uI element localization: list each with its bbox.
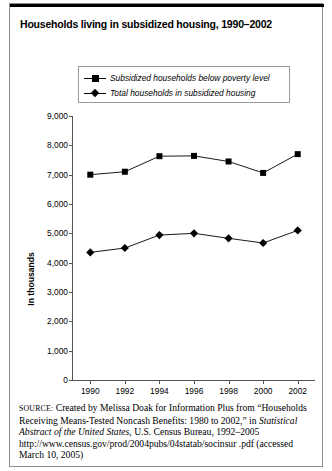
y-axis-tick-mark <box>69 263 73 264</box>
source-label: SOURCE: <box>19 404 53 413</box>
x-axis-tick-label: 1996 <box>185 386 204 396</box>
y-axis-tick-label: 6,000 <box>47 199 68 209</box>
x-axis-tick-mark <box>298 380 299 384</box>
y-axis-tick-mark <box>69 116 73 117</box>
y-axis-tick-mark <box>69 204 73 205</box>
y-axis-tick-label: 3,000 <box>47 287 68 297</box>
y-axis-tick-mark <box>69 380 73 381</box>
x-axis-tick-mark <box>263 380 264 384</box>
legend-item-label: Total households in subsidized housing <box>110 88 255 98</box>
chart-legend: Subsidized households below poverty leve… <box>78 66 290 103</box>
x-axis-tick-mark <box>159 380 160 384</box>
x-axis-tick-label: 2002 <box>288 386 307 396</box>
y-axis-label: In thousands <box>26 234 36 324</box>
y-axis-tick-mark <box>69 175 73 176</box>
diamond-marker <box>224 234 232 242</box>
square-marker <box>295 151 301 157</box>
x-axis-tick-mark <box>229 380 230 384</box>
source-note: SOURCE: Created by Melissa Doak for Info… <box>19 402 317 461</box>
diamond-marker <box>294 226 302 234</box>
square-marker-icon <box>84 73 106 83</box>
figure-container: Households living in subsidized housing,… <box>9 3 323 467</box>
legend-item-subsidized-below-poverty: Subsidized households below poverty leve… <box>84 71 270 85</box>
y-axis-tick-label: 7,000 <box>47 170 68 180</box>
x-axis-tick-label: 2000 <box>254 386 273 396</box>
y-axis-tick-label: 1,000 <box>47 346 68 356</box>
legend-item-total-subsidized: Total households in subsidized housing <box>84 86 255 100</box>
y-axis-tick-mark <box>69 145 73 146</box>
x-axis-tick-label: 1990 <box>81 386 100 396</box>
y-axis-tick-label: 9,000 <box>47 111 68 121</box>
square-marker <box>191 153 197 159</box>
plot-area: 01,0002,0003,0004,0005,0006,0007,0008,00… <box>72 116 315 381</box>
y-axis-tick-label: 5,000 <box>47 228 68 238</box>
square-marker <box>260 170 266 176</box>
x-axis-tick-mark <box>125 380 126 384</box>
diamond-marker <box>259 239 267 247</box>
y-axis-tick-mark <box>69 292 73 293</box>
x-axis-tick-label: 1998 <box>219 386 238 396</box>
x-axis-tick-mark <box>90 380 91 384</box>
y-axis-tick-mark <box>69 351 73 352</box>
square-marker <box>156 153 162 159</box>
title-rule <box>10 4 324 7</box>
x-axis-tick-label: 1994 <box>150 386 169 396</box>
y-axis-tick-label: 4,000 <box>47 258 68 268</box>
y-axis-tick-mark <box>69 233 73 234</box>
y-axis-tick-label: 8,000 <box>47 140 68 150</box>
y-axis-tick-mark <box>69 321 73 322</box>
square-marker <box>87 172 93 178</box>
diamond-marker <box>86 248 94 256</box>
diamond-marker <box>121 244 129 252</box>
square-marker <box>122 169 128 175</box>
x-axis-tick-mark <box>194 380 195 384</box>
page-title: Households living in subsidized housing,… <box>20 18 316 30</box>
diamond-marker-icon <box>84 88 106 98</box>
square-marker <box>226 158 232 164</box>
legend-item-label: Subsidized households below poverty leve… <box>110 73 270 83</box>
diamond-marker <box>155 231 163 239</box>
diamond-marker <box>190 229 198 237</box>
x-axis-tick-label: 1992 <box>116 386 135 396</box>
series-svg <box>73 116 315 380</box>
plot-wrapper: In thousands 01,0002,0003,0004,0005,0006… <box>10 108 324 408</box>
y-axis-tick-label: 2,000 <box>47 316 68 326</box>
y-axis-tick-label: 0 <box>63 375 68 385</box>
